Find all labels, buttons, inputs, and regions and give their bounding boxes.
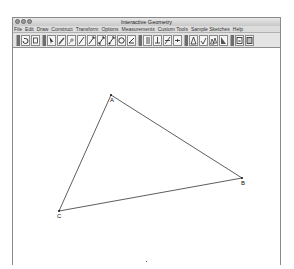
table-icon — [246, 36, 253, 45]
translate-icon — [210, 36, 217, 45]
parallel-tool[interactable] — [143, 35, 152, 46]
redo-button[interactable] — [31, 35, 40, 46]
segment-ca[interactable] — [59, 95, 111, 211]
select-arrow-icon — [48, 36, 55, 45]
menu-bar: File Edit Draw Construct Transform Optio… — [13, 26, 280, 33]
menu-options[interactable]: Options — [101, 26, 118, 33]
menu-sample-sketches[interactable]: Sample Sketches — [191, 26, 230, 33]
sketch-canvas[interactable]: A B C — [13, 48, 280, 265]
menu-transform[interactable]: Transform — [76, 26, 99, 33]
point-c[interactable] — [58, 210, 60, 212]
undo-button[interactable] — [21, 35, 30, 46]
bisector-icon — [164, 36, 171, 45]
menu-edit[interactable]: Edit — [25, 26, 34, 33]
dilate-tool[interactable] — [219, 35, 228, 46]
translate-tool[interactable] — [209, 35, 218, 46]
toolbar-grip[interactable] — [16, 35, 20, 46]
vector-tool[interactable] — [107, 35, 116, 46]
toolbar-separator — [138, 35, 142, 46]
ray-tool[interactable] — [87, 35, 96, 46]
point-icon — [68, 36, 75, 45]
circle-tool[interactable] — [117, 35, 126, 46]
app-window: Interactive Geometry File Edit Draw Cons… — [12, 17, 281, 265]
angle-tool[interactable] — [127, 35, 136, 46]
point-label-b: B — [241, 180, 245, 186]
redo-icon — [32, 36, 39, 45]
undo-icon — [22, 36, 29, 45]
line-tool[interactable] — [97, 35, 106, 46]
pencil-tool[interactable] — [57, 35, 66, 46]
midpoint-icon — [174, 36, 181, 45]
rotate-tool[interactable] — [199, 35, 208, 46]
calculator-button[interactable] — [235, 35, 244, 46]
toolbar-separator — [230, 35, 234, 46]
segment-bc[interactable] — [59, 178, 242, 211]
reflect-icon — [190, 36, 197, 45]
menu-file[interactable]: File — [14, 26, 22, 33]
toolbar-separator — [42, 35, 46, 46]
select-tool[interactable] — [47, 35, 56, 46]
angle-icon — [128, 36, 135, 45]
toolbar — [13, 33, 280, 48]
bisector-tool[interactable] — [163, 35, 172, 46]
toolbar-separator — [184, 35, 188, 46]
reflect-tool[interactable] — [189, 35, 198, 46]
segment-icon — [78, 36, 85, 45]
menu-measurements[interactable]: Measurements — [122, 26, 155, 33]
resize-marker — [146, 261, 147, 262]
midpoint-tool[interactable] — [173, 35, 182, 46]
point-label-c: C — [57, 213, 61, 219]
segment-ab[interactable] — [111, 95, 242, 178]
point-label-a: A — [110, 97, 114, 103]
menu-draw[interactable]: Draw — [37, 26, 49, 33]
circle-icon — [118, 36, 125, 45]
vector-icon — [108, 36, 115, 45]
ray-icon — [88, 36, 95, 45]
point-a[interactable] — [110, 94, 112, 96]
pencil-icon — [58, 36, 65, 45]
dilate-icon — [220, 36, 227, 45]
menu-help[interactable]: Help — [233, 26, 243, 33]
calculator-icon — [236, 36, 243, 45]
point-b[interactable] — [241, 177, 243, 179]
segment-tool[interactable] — [77, 35, 86, 46]
line-icon — [98, 36, 105, 45]
parallel-icon — [144, 36, 151, 45]
rotate-icon — [200, 36, 207, 45]
point-tool[interactable] — [67, 35, 76, 46]
perpendicular-tool[interactable] — [153, 35, 162, 46]
menu-construct[interactable]: Construct — [51, 26, 72, 33]
menu-custom-tools[interactable]: Custom Tools — [158, 26, 188, 33]
table-button[interactable] — [245, 35, 254, 46]
perpendicular-icon — [154, 36, 161, 45]
triangle-drawing[interactable] — [13, 48, 280, 265]
